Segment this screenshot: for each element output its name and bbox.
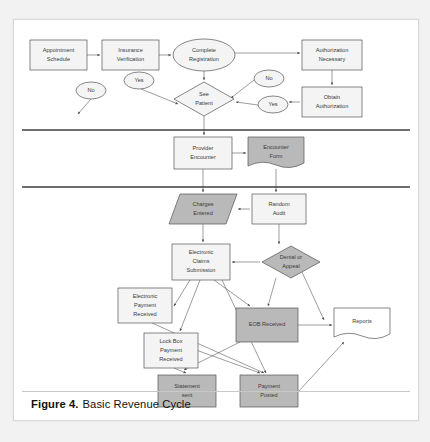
node-label: Verification	[117, 56, 144, 62]
node-verification-yes[interactable]: Yes	[124, 72, 154, 89]
node-provider-encounter[interactable]: Provider Encounter	[174, 137, 232, 169]
node-label: Submission	[187, 267, 216, 273]
node-label: Insurance	[118, 47, 143, 53]
node-label: Yes	[268, 101, 277, 107]
node-label: Payment	[258, 383, 281, 389]
node-label: Electronic	[189, 249, 214, 255]
node-encounter-form[interactable]: Encounter Form	[248, 137, 304, 168]
node-label: Encounter	[263, 144, 289, 150]
node-label: Authorization	[316, 103, 349, 109]
page-background: Appointment Schedule Insurance Verificat…	[0, 0, 430, 442]
node-eob-received[interactable]: EOB Received	[236, 308, 298, 342]
node-label: No	[87, 87, 94, 93]
node-authorization-no[interactable]: No	[254, 70, 284, 87]
node-insurance-verification[interactable]: Insurance Verification	[102, 40, 159, 70]
node-label: Charges	[192, 201, 213, 207]
figure-number: Figure 4.	[31, 398, 79, 410]
node-charges-entered[interactable]: Charges Entered	[169, 194, 237, 224]
figure-title: Basic Revenue Cycle	[79, 398, 191, 410]
node-label: Necessary	[319, 56, 346, 62]
node-label: See	[199, 91, 209, 97]
node-label: Yes	[134, 77, 143, 83]
node-reports[interactable]: Reports	[334, 308, 390, 339]
node-electronic-claims-submission[interactable]: Electronic Claims Submission	[172, 244, 230, 280]
node-label: Denial or	[280, 254, 303, 260]
node-label: EOB Received	[249, 321, 286, 327]
node-authorization-yes[interactable]: Yes	[258, 96, 288, 113]
node-label: Received	[159, 356, 182, 362]
node-label: Authorization	[316, 47, 349, 53]
node-label: Electronic	[133, 293, 158, 299]
node-label: Random	[268, 201, 289, 207]
caption-divider	[22, 391, 410, 392]
node-label: No	[265, 75, 272, 81]
node-see-patient[interactable]: See Patient	[174, 82, 234, 116]
node-label: Obtain	[324, 94, 340, 100]
node-label: Form	[269, 153, 282, 159]
node-label: Statement	[174, 383, 200, 389]
node-label: Lock Box	[159, 338, 182, 344]
figure-caption: Figure 4.Basic Revenue Cycle	[31, 398, 401, 410]
node-label: Appeal	[282, 263, 299, 269]
node-electronic-payment-received[interactable]: Electronic Payment Received	[118, 288, 172, 323]
node-group: Appointment Schedule Insurance Verificat…	[30, 39, 390, 407]
node-label: Received	[133, 311, 156, 317]
node-label: Claims	[192, 258, 209, 264]
node-authorization-necessary[interactable]: Authorization Necessary	[302, 40, 362, 70]
node-obtain-authorization[interactable]: Obtain Authorization	[302, 87, 362, 117]
node-complete-registration[interactable]: Complete Registration	[173, 39, 235, 71]
node-label: Payment	[134, 302, 157, 308]
node-label: Appointment	[43, 47, 75, 53]
node-appointment-schedule[interactable]: Appointment Schedule	[30, 40, 87, 70]
node-label: Payment	[160, 347, 183, 353]
node-lock-box-payment-received[interactable]: Lock Box Payment Received	[144, 333, 198, 368]
node-verification-no[interactable]: No	[76, 82, 106, 99]
node-label: Schedule	[47, 56, 70, 62]
node-label: Patient	[195, 100, 213, 106]
node-label: Complete	[192, 47, 216, 53]
revenue-cycle-flowchart: Appointment Schedule Insurance Verificat…	[14, 20, 418, 420]
node-label: Reports	[352, 318, 372, 324]
node-label: Audit	[273, 210, 286, 216]
node-label: Entered	[193, 210, 213, 216]
node-label: Provider	[193, 145, 214, 151]
figure-card: Appointment Schedule Insurance Verificat…	[13, 19, 419, 421]
node-random-audit[interactable]: Random Audit	[252, 194, 306, 224]
node-label: Encounter	[190, 154, 216, 160]
node-denial-or-appeal[interactable]: Denial or Appeal	[262, 246, 320, 278]
node-label: Registration	[189, 56, 219, 62]
